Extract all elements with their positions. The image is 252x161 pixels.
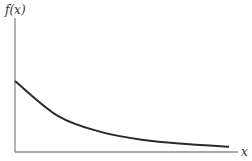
x-axis-label: x xyxy=(241,145,248,159)
series-line-0 xyxy=(15,81,229,147)
y-axis-label: f(x) xyxy=(4,3,26,17)
chart: f(x) x xyxy=(0,0,252,161)
